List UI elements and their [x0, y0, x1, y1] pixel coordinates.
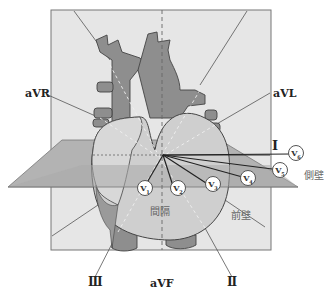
electrode-V1: V1 [137, 180, 153, 196]
region-label-anterior-wall: 前壁 [231, 207, 251, 222]
ecg-lead-diagram: aVR aVL Ⅰ Ⅲ aVF Ⅱ V1 V2 V3 V4 V5 V6 間隔 前… [0, 0, 332, 296]
electrode-V2: V2 [170, 180, 186, 196]
region-label-lateral-wall: 側壁 [304, 167, 324, 182]
lead-label-aVF: aVF [150, 277, 173, 290]
electrode-V6: V6 [288, 145, 304, 161]
lead-label-aVL: aVL [273, 87, 296, 100]
lead-label-aVR: aVR [25, 87, 50, 100]
electrode-V4: V4 [240, 170, 256, 186]
electrode-V5: V5 [272, 162, 288, 178]
electrode-V3: V3 [205, 176, 221, 192]
heart-lead-illustration [0, 0, 332, 296]
lead-label-II: Ⅱ [227, 275, 237, 289]
lead-label-I: Ⅰ [272, 138, 278, 153]
region-label-septum: 間隔 [150, 203, 170, 218]
lead-label-III: Ⅲ [88, 275, 103, 289]
